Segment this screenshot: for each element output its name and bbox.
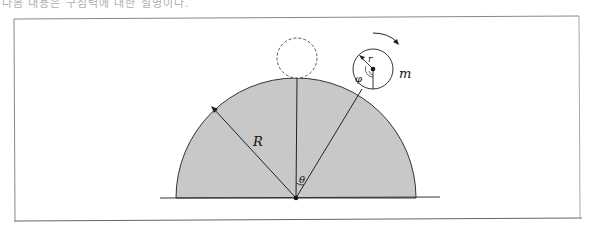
initial-ball-dashed <box>277 38 317 78</box>
physics-diagram: R θ r φ m <box>0 0 593 229</box>
label-R: R <box>252 134 263 149</box>
center-point <box>294 196 298 200</box>
label-m: m <box>399 66 411 81</box>
label-r: r <box>368 54 373 64</box>
label-theta: θ <box>299 174 305 185</box>
rotation-arrow-icon <box>373 33 399 45</box>
label-phi: φ <box>355 73 362 84</box>
